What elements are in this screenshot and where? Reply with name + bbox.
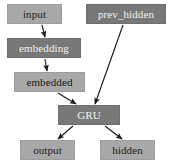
node-prev-hidden-label: prev_hidden — [98, 8, 154, 19]
edge-prevhidden-gru — [95, 25, 123, 104]
node-gru[interactable]: GRU — [58, 105, 120, 125]
edge-gru-output — [58, 126, 73, 139]
node-embedding[interactable]: embedding — [7, 38, 81, 58]
gru-dataflow-diagram: input prev_hidden embedding embedded GRU… — [0, 0, 172, 166]
node-embedding-label: embedding — [19, 42, 69, 53]
node-input[interactable]: input — [7, 4, 62, 24]
edge-input-embedding — [42, 25, 45, 37]
node-hidden[interactable]: hidden — [100, 140, 155, 160]
node-output[interactable]: output — [20, 140, 75, 160]
node-embedded[interactable]: embedded — [14, 72, 85, 92]
edge-embedded-gru — [58, 93, 76, 104]
node-gru-label: GRU — [77, 109, 101, 120]
node-hidden-label: hidden — [112, 144, 143, 155]
node-input-label: input — [23, 8, 46, 19]
node-embedded-label: embedded — [26, 76, 72, 87]
edge-embedding-embedded — [45, 59, 47, 71]
node-prev-hidden[interactable]: prev_hidden — [86, 4, 166, 24]
node-output-label: output — [33, 144, 62, 155]
edge-gru-hidden — [105, 126, 122, 139]
